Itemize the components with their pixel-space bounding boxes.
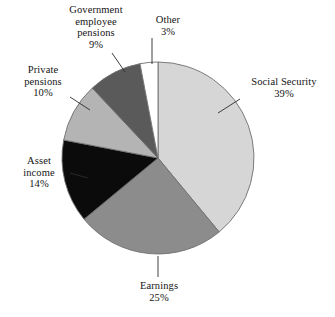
pie-label-value: 3% — [138, 26, 198, 38]
pie-label-other: Other 3% — [138, 14, 198, 37]
pie-label-line: income — [0, 167, 78, 179]
pie-label-line: Other — [138, 14, 198, 26]
pie-label-line: Private — [0, 64, 86, 76]
pie-chart-figure: Government employee pensions 9% Other 3%… — [0, 0, 335, 317]
pie-label-line: Social Security — [234, 76, 334, 88]
leader-line-government-employee-pensions — [112, 53, 125, 72]
pie-label-private-pensions: Private pensions 10% — [0, 64, 86, 99]
pie-label-line: Asset — [0, 155, 78, 167]
pie-label-earnings: Earnings 25% — [104, 280, 214, 303]
pie-label-value: 25% — [104, 292, 214, 304]
pie-label-line: employee — [50, 16, 142, 28]
pie-label-line: Earnings — [104, 280, 214, 292]
pie-label-line: pensions — [0, 76, 86, 88]
pie-slices — [62, 62, 254, 254]
pie-label-social-security: Social Security 39% — [234, 76, 334, 99]
pie-label-government-employee-pensions: Government employee pensions 9% — [50, 4, 142, 50]
pie-label-value: 10% — [0, 87, 86, 99]
pie-label-value: 14% — [0, 178, 78, 190]
pie-label-asset-income: Asset income 14% — [0, 155, 78, 190]
pie-label-line: pensions — [50, 27, 142, 39]
pie-label-line: Government — [50, 4, 142, 16]
pie-label-value: 39% — [234, 88, 334, 100]
pie-label-value: 9% — [50, 39, 142, 51]
